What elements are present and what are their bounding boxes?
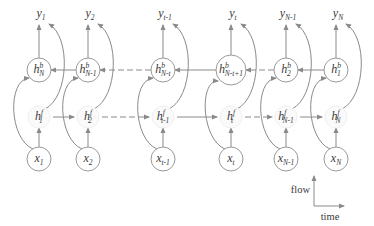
edges: [14, 24, 362, 149]
output-label: yt-1: [157, 6, 172, 22]
forward-hidden-label: hf2: [84, 108, 93, 125]
output-label: yt: [228, 6, 237, 22]
forward-hidden-label: hf1: [35, 108, 44, 125]
output-label: y2: [84, 6, 94, 22]
diagram-canvas: y1hbNhf1x1y2hbN-1hf2x2yt-1hbN-thft-1xt-1…: [0, 0, 374, 226]
output-label: yN: [332, 6, 344, 22]
backward-hidden-label: hb1: [331, 61, 341, 78]
flow-time-legend: flow time: [291, 176, 344, 222]
flow-label: flow: [291, 184, 311, 195]
bidirectional-rnn-diagram: y1hbNhf1x1y2hbN-1hf2x2yt-1hbN-thft-1xt-1…: [0, 0, 374, 226]
backward-hidden-label: hb2: [281, 61, 291, 78]
time-label: time: [321, 211, 340, 222]
nodes: y1hbNhf1x1y2hbN-1hf2x2yt-1hbN-thft-1xt-1…: [27, 6, 348, 171]
output-label: y1: [35, 6, 45, 22]
output-label: yN-1: [279, 6, 297, 22]
